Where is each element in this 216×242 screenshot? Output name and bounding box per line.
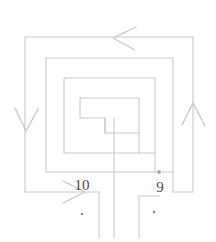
terminal-dot-left xyxy=(81,213,84,216)
terminal-label-9: 9 xyxy=(156,179,164,195)
spiral-inductor-svg: 10 9 xyxy=(0,0,216,242)
spiral-ring-4-inner xyxy=(80,98,139,153)
terminal-dot-right xyxy=(153,211,156,214)
terminal-bracket-right xyxy=(139,196,160,238)
flow-arrow-left-icon xyxy=(15,108,38,131)
flow-arrows-group xyxy=(15,27,205,203)
terminal-label-10: 10 xyxy=(75,177,90,193)
spiral-ring-4-inner-b xyxy=(80,98,139,133)
spiral-coil-group xyxy=(25,37,193,238)
flow-arrow-top-icon xyxy=(113,27,136,50)
diagram-canvas: 10 9 xyxy=(0,0,216,242)
junction-dots-group xyxy=(81,170,161,215)
spiral-ring-1-outer xyxy=(25,37,193,192)
spiral-ring-3 xyxy=(64,78,155,172)
junction-dot-bottom-wire xyxy=(157,170,161,174)
